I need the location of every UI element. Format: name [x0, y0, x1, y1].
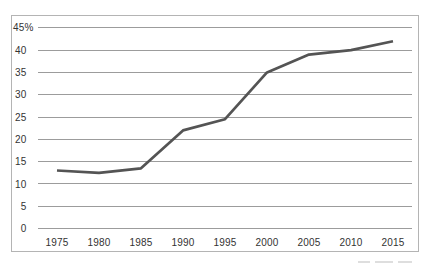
y-tick-label: 40	[15, 45, 27, 56]
data-series-group	[57, 41, 393, 173]
y-axis-labels-group: 051015202530354045%	[13, 22, 34, 234]
gridlines-group	[38, 28, 412, 229]
y-tick-label: 20	[15, 134, 27, 145]
line-chart-svg: 051015202530354045% 19751980198519901995…	[11, 15, 419, 252]
data-line	[57, 41, 393, 173]
y-tick-label: 25	[15, 112, 27, 123]
chart-panel: 051015202530354045% 19751980198519901995…	[0, 0, 430, 266]
y-tick-label: 45%	[13, 22, 34, 33]
x-tick-label: 1980	[87, 237, 110, 248]
x-tick-label: 1985	[129, 237, 152, 248]
watermark-fragment	[358, 261, 424, 265]
y-tick-label: 0	[21, 223, 27, 234]
watermark-mark	[398, 261, 412, 263]
y-tick-label: 35	[15, 67, 27, 78]
x-tick-label: 2000	[255, 237, 278, 248]
y-tick-label: 10	[15, 179, 27, 190]
x-tick-label: 1995	[213, 237, 236, 248]
x-axis-labels-group: 197519801985199019952000200520102015	[45, 237, 404, 248]
y-tick-label: 30	[15, 89, 27, 100]
y-tick-label: 5	[21, 201, 27, 212]
watermark-mark	[375, 261, 393, 263]
x-tick-label: 2015	[381, 237, 404, 248]
y-tick-label: 15	[15, 156, 27, 167]
watermark-mark	[358, 261, 370, 263]
x-tick-label: 2010	[339, 237, 362, 248]
x-tick-label: 2005	[297, 237, 320, 248]
chart-frame-border	[12, 16, 419, 252]
x-tick-label: 1990	[171, 237, 194, 248]
x-tick-label: 1975	[45, 237, 68, 248]
